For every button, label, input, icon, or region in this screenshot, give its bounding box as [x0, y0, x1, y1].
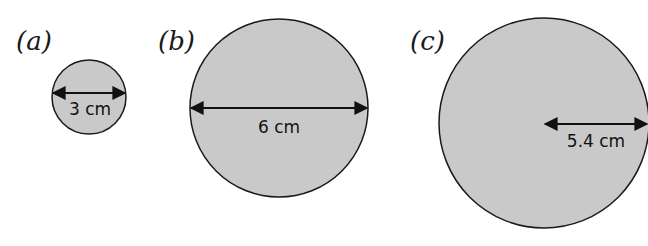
figure-b: (b) 6 cm	[158, 19, 368, 197]
figure-a-label: (a)	[16, 26, 52, 56]
circle-a	[52, 60, 126, 134]
figure-a: (a) 3 cm	[16, 26, 126, 134]
dimension-label-a: 3 cm	[69, 99, 111, 119]
figure-c-label: (c)	[410, 26, 445, 56]
dimension-label-c: 5.4 cm	[567, 131, 625, 151]
circles-diagram: (a) 3 cm (b) 6 cm (c) 5.4 cm	[0, 0, 648, 246]
figure-c: (c) 5.4 cm	[410, 18, 648, 228]
dimension-label-b: 6 cm	[258, 117, 300, 137]
figure-b-label: (b)	[158, 26, 195, 56]
